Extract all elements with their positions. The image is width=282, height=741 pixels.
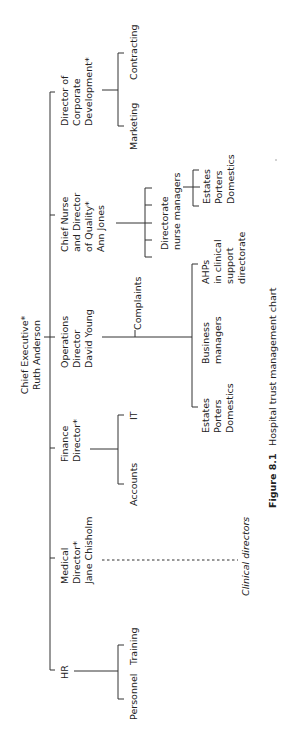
svg-text:Estates: Estates xyxy=(200,398,211,433)
svg-text:managers: managers xyxy=(212,316,223,364)
svg-text:Personnel: Personnel xyxy=(128,674,139,720)
it-node: IT xyxy=(128,411,139,420)
svg-text:Director: Director xyxy=(71,330,82,368)
svg-text:of Quality*: of Quality* xyxy=(83,201,94,252)
figure-caption: Figure 8.1 Hospital trust management cha… xyxy=(267,287,278,508)
svg-text:Estates: Estates xyxy=(201,169,212,204)
personnel-node: Personnel xyxy=(128,674,139,720)
clinical-directors-node: Clinical directors xyxy=(240,517,251,596)
svg-text:Business: Business xyxy=(200,322,211,364)
svg-text:Jane Chisholm: Jane Chisholm xyxy=(83,517,94,585)
svg-text:Complaints: Complaints xyxy=(132,276,143,330)
training-node: Training xyxy=(128,628,139,667)
svg-text:Ruth Anderson: Ruth Anderson xyxy=(31,320,42,390)
svg-text:Development*: Development* xyxy=(83,57,94,126)
org-chart: Chief Executive* Ruth Anderson HR Person… xyxy=(0,0,282,741)
svg-text:nurse managers: nurse managers xyxy=(171,173,182,250)
svg-text:Accounts: Accounts xyxy=(128,463,139,506)
svg-text:Porters: Porters xyxy=(212,399,223,433)
corp-dev-node: Director of Corporate Development* xyxy=(59,57,94,126)
svg-text:Director*: Director* xyxy=(71,541,82,584)
svg-text:David Young: David Young xyxy=(83,309,94,368)
svg-text:Domestics: Domestics xyxy=(224,383,235,433)
svg-text:Chief Nurse: Chief Nurse xyxy=(59,197,70,252)
ahps-node: AHPs in clinical support directorate xyxy=(200,232,247,284)
svg-text:Finance: Finance xyxy=(59,426,70,462)
svg-text:Medical: Medical xyxy=(59,548,70,584)
svg-text:Clinical directors: Clinical directors xyxy=(240,517,251,596)
business-managers-node: Business managers xyxy=(200,316,223,364)
complaints-node: Complaints xyxy=(132,276,143,330)
medical-director-node: Medical Director* Jane Chisholm xyxy=(59,517,94,585)
operations-director-node: Operations Director David Young xyxy=(59,309,94,368)
svg-text:Training: Training xyxy=(128,628,139,667)
svg-text:Porters: Porters xyxy=(213,170,224,204)
figure-label: Figure 8.1 xyxy=(267,453,278,508)
nurse-estates-node: Estates Porters Domestics xyxy=(201,154,236,204)
svg-text:directorate: directorate xyxy=(236,232,247,284)
svg-text:Director of: Director of xyxy=(59,75,70,126)
directorate-nurse-managers-node: Directorate nurse managers xyxy=(159,173,182,250)
stray-dot xyxy=(275,159,277,161)
ops-estates-node: Estates Porters Domestics xyxy=(200,383,235,433)
figure-caption-text: Hospital trust management chart xyxy=(267,287,278,446)
hr-node: HR xyxy=(59,665,70,679)
svg-text:in clinical: in clinical xyxy=(212,239,223,284)
chief-nurse-node: Chief Nurse and Director of Quality* Ann… xyxy=(59,193,106,252)
svg-text:Operations: Operations xyxy=(59,316,70,368)
svg-text:Director*: Director* xyxy=(71,419,82,462)
svg-text:HR: HR xyxy=(59,665,70,679)
svg-text:and Director: and Director xyxy=(71,193,82,252)
svg-text:Directorate: Directorate xyxy=(159,196,170,250)
svg-text:Chief Executive*: Chief Executive* xyxy=(19,316,30,395)
svg-text:Domestics: Domestics xyxy=(225,154,236,204)
contracting-node: Contracting xyxy=(128,24,139,80)
svg-text:Ann Jones: Ann Jones xyxy=(95,205,106,252)
svg-text:support: support xyxy=(224,247,235,284)
finance-director-node: Finance Director* xyxy=(59,419,82,462)
svg-text:IT: IT xyxy=(128,411,139,420)
accounts-node: Accounts xyxy=(128,463,139,506)
svg-text:Marketing: Marketing xyxy=(128,103,139,150)
ceo-node: Chief Executive* Ruth Anderson xyxy=(19,316,42,395)
svg-text:Contracting: Contracting xyxy=(128,24,139,80)
svg-text:AHPs: AHPs xyxy=(200,260,211,284)
marketing-node: Marketing xyxy=(128,103,139,150)
svg-text:Corporate: Corporate xyxy=(71,78,82,126)
